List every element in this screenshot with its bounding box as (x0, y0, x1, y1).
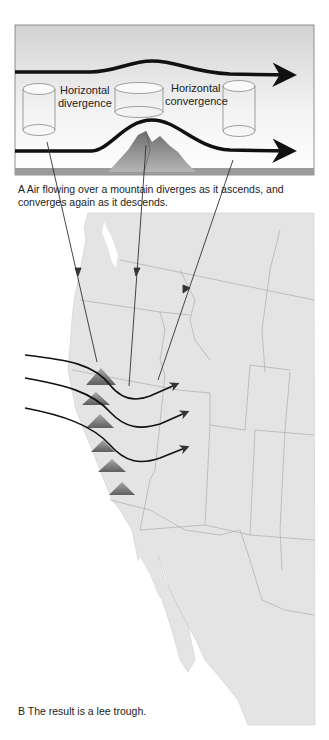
label-divergence-2: divergence (58, 97, 112, 109)
western-us-map (25, 213, 315, 725)
caption-a: A Air flowing over a mountain diverges a… (18, 183, 318, 209)
panel-a-diagram: Horizontal divergence Horizontal converg… (15, 25, 314, 175)
label-divergence-1: Horizontal (60, 84, 110, 96)
label-convergence-1: Horizontal (171, 82, 221, 94)
caption-b: B The result is a lee trough. (18, 705, 146, 718)
figure-canvas: Horizontal divergence Horizontal converg… (0, 0, 329, 740)
label-convergence-2: convergence (165, 95, 228, 107)
